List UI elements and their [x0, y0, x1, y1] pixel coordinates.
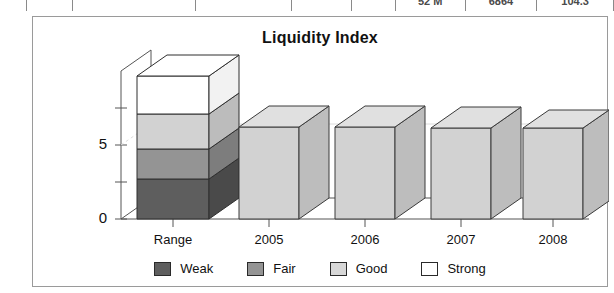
legend-swatch-strong	[421, 262, 438, 276]
legend-item-fair: Fair	[247, 261, 295, 276]
table-cell: 104.3	[537, 0, 613, 11]
x-tick-label-2006: 2006	[320, 232, 410, 247]
legend-label-weak: Weak	[180, 261, 213, 276]
legend-swatch-fair	[247, 262, 264, 276]
legend-item-weak: Weak	[154, 261, 213, 276]
bar-2007	[431, 107, 521, 219]
legend-item-good: Good	[330, 261, 388, 276]
bar-2008	[523, 110, 609, 219]
table-cell	[27, 0, 73, 11]
y-tick-label-5: 5	[83, 135, 107, 152]
table-cell: 52 M	[396, 0, 466, 11]
x-tick-label-2007: 2007	[416, 232, 506, 247]
x-tick-label-2008: 2008	[508, 232, 598, 247]
chart-legend: Weak Fair Good Strong	[33, 261, 607, 276]
legend-label-fair: Fair	[273, 261, 295, 276]
legend-item-strong: Strong	[421, 261, 485, 276]
chart-plot-area	[33, 17, 609, 288]
clipped-table-row-cells: 52 M 6864 104.3	[26, 0, 614, 11]
x-axis-ticks	[173, 219, 553, 227]
legend-swatch-weak	[154, 262, 171, 276]
table-cell	[73, 0, 197, 11]
legend-label-strong: Strong	[447, 261, 485, 276]
x-tick-label-range: Range	[128, 232, 218, 247]
table-cell: 6864	[466, 0, 538, 11]
table-cell	[196, 0, 292, 11]
y-tick-label-0: 0	[83, 209, 107, 226]
x-tick-label-2005: 2005	[224, 232, 314, 247]
clipped-table-row: 52 M 6864 104.3	[26, 0, 614, 11]
legend-swatch-good	[330, 262, 347, 276]
bar-2005	[239, 106, 329, 219]
bar-2006	[335, 106, 425, 219]
chart-container: Liquidity Index	[32, 16, 608, 287]
table-cell	[292, 0, 352, 11]
table-cell	[352, 0, 396, 11]
legend-label-good: Good	[356, 261, 388, 276]
